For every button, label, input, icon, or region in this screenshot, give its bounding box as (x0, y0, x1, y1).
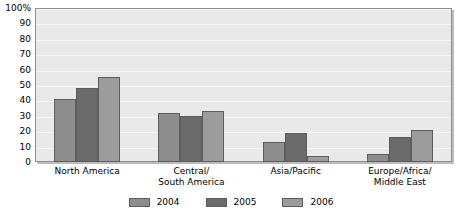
gridline (36, 9, 451, 10)
bar[interactable] (54, 99, 76, 162)
bar[interactable] (180, 116, 202, 162)
bar[interactable] (76, 88, 98, 162)
gridline (36, 55, 451, 56)
bar[interactable] (158, 113, 180, 162)
bar[interactable] (307, 156, 329, 162)
x-axis-category-label: North America (55, 166, 120, 177)
y-axis: 0102030405060708090100% (0, 8, 31, 162)
gridline (36, 71, 451, 72)
x-axis-category-label: Central/ South America (158, 166, 224, 188)
bar[interactable] (367, 154, 389, 162)
legend-label: 2005 (234, 198, 257, 207)
bar[interactable] (202, 111, 224, 162)
gridline (36, 24, 451, 25)
bar[interactable] (285, 133, 307, 162)
bar[interactable] (411, 130, 433, 162)
x-axis-category-label: Europe/Africa/ Middle East (368, 166, 431, 188)
legend-swatch (282, 198, 303, 207)
x-axis-category-label: Asia/Pacific (270, 166, 321, 177)
legend-item[interactable]: 2004 (129, 198, 180, 207)
y-axis-tick-label: 80 (20, 34, 31, 43)
legend-swatch (206, 198, 227, 207)
legend-item[interactable]: 2005 (206, 198, 257, 207)
legend-item[interactable]: 2006 (282, 198, 333, 207)
y-axis-tick-label: 30 (20, 111, 31, 120)
x-axis: North AmericaCentral/ South AmericaAsia/… (35, 166, 452, 200)
bar-chart-figure: 0102030405060708090100% North AmericaCen… (0, 0, 462, 223)
bar[interactable] (263, 142, 285, 162)
y-axis-tick-label: 60 (20, 65, 31, 74)
y-axis-tick-label: 40 (20, 96, 31, 105)
legend-label: 2004 (157, 198, 180, 207)
legend-swatch (129, 198, 150, 207)
gridline (36, 40, 451, 41)
y-axis-tick-label: 100% (5, 4, 31, 13)
y-axis-tick-label: 70 (20, 50, 31, 59)
y-axis-tick-label: 0 (25, 158, 31, 167)
chart-legend: 200420052006 (0, 198, 462, 207)
bar[interactable] (98, 77, 120, 162)
bar[interactable] (389, 137, 411, 162)
y-axis-tick-label: 50 (20, 81, 31, 90)
y-axis-tick-label: 10 (20, 142, 31, 151)
y-axis-tick-label: 90 (20, 19, 31, 28)
y-axis-tick-label: 20 (20, 127, 31, 136)
legend-label: 2006 (310, 198, 333, 207)
